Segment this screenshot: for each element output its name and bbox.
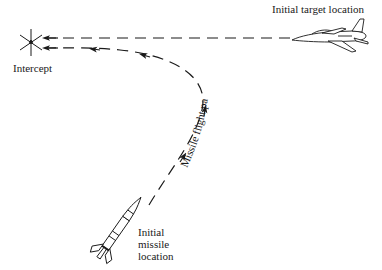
target-location-label: Initial target location [272,3,364,15]
missile-location-label: Initial missile location [138,226,188,262]
flight-path-label: Missile flight path [0,0,210,169]
missile-label-line-1: Initial [138,226,188,238]
aircraft-icon [292,19,368,52]
intercept-star-icon [20,29,42,56]
diagram-canvas: Missile flight path [0,0,382,270]
intercept-label: Intercept [13,62,52,74]
missile-flight-path [46,48,205,205]
missile-label-line-2: missile [138,238,188,250]
missile-label-line-3: location [138,250,188,262]
